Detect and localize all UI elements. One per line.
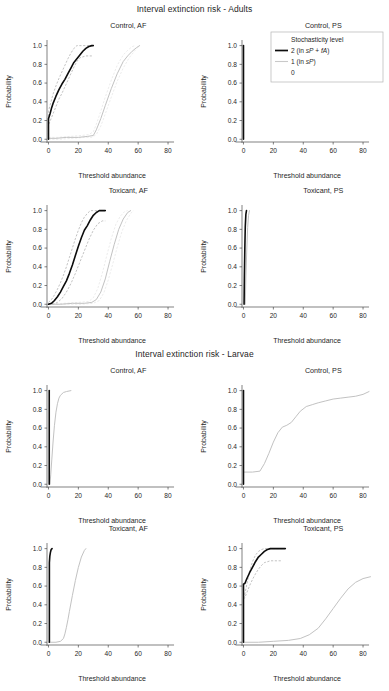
x-tick-label: 0 [242, 650, 246, 657]
y-tick-label: 0.0 [33, 136, 42, 143]
panel-adults-control-af: Control, AF0.00.20.40.60.81.0Probability… [0, 18, 194, 183]
plot-larvae-control-ps: Control, PS0.00.20.40.60.81.0Probability… [195, 363, 389, 528]
y-tick-label: 1.0 [33, 207, 42, 214]
x-tick-label: 80 [164, 492, 172, 499]
x-tick-label: 0 [47, 312, 51, 319]
y-tick-label: 0.8 [33, 61, 42, 68]
x-tick-label: 20 [75, 147, 83, 154]
panel-larvae-control-af: Control, AF0.00.20.40.60.81.0Probability… [0, 363, 194, 528]
plot-title: Control, AF [110, 366, 147, 375]
x-tick-label: 60 [134, 147, 142, 154]
series-line [48, 46, 93, 140]
x-tick-label: 60 [329, 650, 337, 657]
x-tick-label: 40 [300, 650, 308, 657]
y-tick-label: 0.8 [33, 564, 42, 571]
y-tick-label: 1.0 [228, 207, 237, 214]
panel-adults-toxicant-ps: Toxicant, PS0.00.20.40.60.81.0Probabilit… [195, 183, 389, 348]
x-tick-label: 0 [242, 492, 246, 499]
x-axis-label: Threshold abundance [273, 675, 341, 682]
x-tick-label: 60 [329, 312, 337, 319]
plot-adults-toxicant-af: Toxicant, AF0.00.20.40.60.81.0Probabilit… [0, 183, 194, 348]
y-axis-label: Probability [5, 420, 13, 453]
x-tick-label: 0 [242, 312, 246, 319]
series-line [48, 46, 135, 138]
series-line [48, 46, 91, 140]
x-axis-label: Threshold abundance [78, 337, 146, 344]
plot-title: Toxicant, PS [303, 186, 343, 195]
y-tick-label: 0.8 [228, 406, 237, 413]
y-tick-label: 0.0 [228, 301, 237, 308]
x-tick-label: 40 [300, 492, 308, 499]
x-tick-label: 40 [105, 312, 113, 319]
figure-container: Interval extinction risk - Adults Interv… [0, 0, 389, 691]
y-axis-label: Probability [5, 75, 13, 108]
y-axis-label: Probability [200, 75, 208, 108]
x-tick-label: 20 [270, 650, 278, 657]
x-tick-label: 0 [47, 492, 51, 499]
y-tick-label: 0.6 [33, 424, 42, 431]
y-tick-label: 1.0 [228, 387, 237, 394]
y-tick-label: 0.4 [33, 263, 42, 270]
y-tick-label: 0.0 [33, 639, 42, 646]
x-tick-label: 60 [134, 650, 142, 657]
x-tick-label: 60 [329, 492, 337, 499]
legend-label-2: 1 (in sP) [291, 58, 316, 66]
panel-larvae-control-ps: Control, PS0.00.20.40.60.81.0Probability… [195, 363, 389, 528]
series-line [48, 549, 85, 643]
x-tick-label: 80 [164, 650, 172, 657]
y-tick-label: 1.0 [33, 387, 42, 394]
y-tick-label: 0.6 [228, 79, 237, 86]
plot-title: Toxicant, AF [109, 524, 149, 533]
x-tick-label: 0 [242, 147, 246, 154]
y-tick-label: 0.0 [33, 481, 42, 488]
series-line [243, 577, 370, 643]
x-tick-label: 80 [359, 147, 367, 154]
x-axis-label: Threshold abundance [273, 337, 341, 344]
series-line [48, 46, 139, 139]
section-title-larvae: Interval extinction risk - Larvae [0, 349, 389, 359]
x-tick-label: 80 [359, 650, 367, 657]
y-axis-label: Probability [200, 420, 208, 453]
series-line [50, 391, 71, 485]
y-tick-label: 0.2 [33, 620, 42, 627]
x-tick-label: 0 [47, 147, 51, 154]
plot-title: Control, AF [110, 21, 147, 30]
y-axis-label: Probability [5, 240, 13, 273]
y-tick-label: 0.4 [33, 98, 42, 105]
y-tick-label: 0.4 [33, 601, 42, 608]
series-line [243, 392, 369, 473]
y-tick-label: 0.8 [228, 226, 237, 233]
plot-larvae-control-af: Control, AF0.00.20.40.60.81.0Probability… [0, 363, 194, 528]
x-tick-label: 20 [270, 147, 278, 154]
y-tick-label: 0.8 [228, 61, 237, 68]
x-tick-label: 0 [47, 650, 51, 657]
x-tick-label: 20 [75, 492, 83, 499]
y-tick-label: 0.4 [228, 443, 237, 450]
panel-larvae-toxicant-af: Toxicant, AF0.00.20.40.60.81.0Probabilit… [0, 521, 194, 686]
x-tick-label: 80 [164, 312, 172, 319]
plot-title: Toxicant, AF [109, 186, 149, 195]
x-tick-label: 80 [359, 492, 367, 499]
y-tick-label: 0.2 [228, 462, 237, 469]
x-tick-label: 80 [359, 312, 367, 319]
x-axis-label: Threshold abundance [78, 675, 146, 682]
y-tick-label: 0.4 [228, 263, 237, 270]
x-axis-label: Threshold abundance [78, 172, 146, 179]
y-tick-label: 0.8 [33, 226, 42, 233]
plot-adults-control-af: Control, AF0.00.20.40.60.81.0Probability… [0, 18, 194, 183]
y-tick-label: 0.6 [228, 424, 237, 431]
y-tick-label: 1.0 [33, 42, 42, 49]
legend-label-3: 0 [291, 69, 295, 76]
y-tick-label: 0.2 [228, 282, 237, 289]
panel-adults-control-ps: Control, PS0.00.20.40.60.81.0Probability… [195, 18, 389, 183]
y-axis-label: Probability [200, 240, 208, 273]
y-tick-label: 0.2 [33, 462, 42, 469]
x-tick-label: 40 [300, 147, 308, 154]
y-tick-label: 0.0 [228, 481, 237, 488]
y-tick-label: 0.0 [228, 136, 237, 143]
legend-label-1: 2 (in sP + fA) [291, 47, 329, 55]
plot-adults-control-ps: Control, PS0.00.20.40.60.81.0Probability… [195, 18, 389, 183]
y-tick-label: 0.6 [33, 79, 42, 86]
x-tick-label: 20 [75, 650, 83, 657]
plot-title: Toxicant, PS [303, 524, 343, 533]
